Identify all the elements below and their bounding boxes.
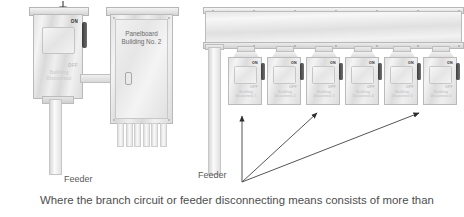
building-disconnect-4[interactable]: ONOFFBuildingDisconnect 4 bbox=[345, 57, 379, 105]
building-disconnect-6[interactable]: ONOFFBuildingDisconnect 6 bbox=[423, 57, 457, 105]
feeder-label-left: Feeder bbox=[64, 174, 93, 184]
building-disconnect-5[interactable]: ONOFFBuildingDisconnect 5 bbox=[384, 57, 418, 105]
disconnect-to-panelboard-nipple bbox=[80, 74, 114, 83]
disconnect-nameplate: BuildingDisconnect 3 bbox=[309, 90, 339, 98]
disconnect-nameplate: BuildingDisconnect 6 bbox=[426, 90, 456, 98]
cabinet-screw bbox=[168, 17, 170, 19]
panelboard-door[interactable]: Panelboard Building No. 2 bbox=[115, 19, 168, 119]
left-building-disconnect[interactable]: ON OFF Building Disconnect bbox=[33, 14, 83, 99]
nameplate-line-2: Disconnect 2 bbox=[270, 94, 300, 98]
on-position-label: ON bbox=[71, 19, 78, 24]
disconnect-operating-handle[interactable] bbox=[82, 22, 87, 48]
on-position-label: ON bbox=[330, 61, 336, 65]
cabinet-screw bbox=[168, 119, 170, 121]
cabinet-screw bbox=[113, 17, 115, 19]
panelboard-building-2[interactable]: Panelboard Building No. 2 bbox=[110, 14, 173, 124]
enclosure-window bbox=[390, 66, 413, 84]
off-position-label: OFF bbox=[328, 85, 336, 89]
disconnect-nameplate: Building Disconnect bbox=[38, 70, 80, 81]
conduit-stub bbox=[117, 123, 124, 147]
wireway-screw bbox=[417, 45, 419, 47]
conduit-stub bbox=[151, 123, 158, 147]
nameplate-line-2: Disconnect 1 bbox=[231, 94, 261, 98]
building-disconnect-3[interactable]: ONOFFBuildingDisconnect 3 bbox=[306, 57, 340, 105]
conduit-stub bbox=[143, 123, 150, 147]
conduit-stub bbox=[160, 123, 167, 147]
conduit-stub bbox=[134, 123, 141, 147]
off-position-label: OFF bbox=[289, 85, 297, 89]
enclosure-window bbox=[42, 27, 75, 54]
enclosure-body: ON OFF Building Disconnect bbox=[33, 14, 83, 99]
off-position-label: OFF bbox=[445, 85, 453, 89]
enclosure-window bbox=[312, 66, 335, 84]
disconnect-operating-handle[interactable] bbox=[456, 63, 460, 80]
cabinet-screw bbox=[113, 119, 115, 121]
feeder-label-right: Feeder bbox=[198, 170, 227, 180]
disconnect-nameplate: BuildingDisconnect 2 bbox=[270, 90, 300, 98]
panelboard-title-line-1: Panelboard bbox=[116, 30, 167, 38]
left-feeder-riser-conduit bbox=[49, 99, 62, 175]
on-position-label: ON bbox=[252, 61, 258, 65]
enclosure-body: ONOFFBuildingDisconnect 4 bbox=[345, 57, 379, 105]
figure-caption: Where the branch circuit or feeder disco… bbox=[40, 193, 460, 208]
on-position-label: ON bbox=[291, 61, 297, 65]
conduit-stub bbox=[126, 123, 133, 147]
wireway-screw bbox=[294, 45, 296, 47]
on-position-label: ON bbox=[447, 61, 453, 65]
on-position-label: ON bbox=[408, 61, 414, 65]
enclosure-body: ONOFFBuildingDisconnect 1 bbox=[228, 57, 262, 105]
auxiliary-gutter-wireway bbox=[205, 11, 462, 46]
nameplate-line-2: Disconnect 3 bbox=[309, 94, 339, 98]
building-disconnect-2[interactable]: ONOFFBuildingDisconnect 2 bbox=[267, 57, 301, 105]
off-position-label: OFF bbox=[250, 85, 258, 89]
disconnect-operating-handle[interactable] bbox=[300, 63, 304, 80]
enclosure-window bbox=[234, 66, 257, 84]
enclosure-window bbox=[273, 66, 296, 84]
off-position-label: OFF bbox=[68, 63, 78, 68]
disconnect-nameplate: BuildingDisconnect 4 bbox=[348, 90, 378, 98]
nameplate-line-2: Disconnect 6 bbox=[426, 94, 456, 98]
enclosure-body: ONOFFBuildingDisconnect 3 bbox=[306, 57, 340, 105]
off-position-label: OFF bbox=[367, 85, 375, 89]
callout-arrow-2 bbox=[242, 113, 317, 182]
callout-arrow-3 bbox=[242, 113, 419, 182]
nameplate-line-2: Disconnect 4 bbox=[348, 94, 378, 98]
wireway-screw bbox=[376, 45, 378, 47]
enclosure-body: ONOFFBuildingDisconnect 5 bbox=[384, 57, 418, 105]
on-position-label: ON bbox=[369, 61, 375, 65]
disconnect-nameplate: BuildingDisconnect 5 bbox=[387, 90, 417, 98]
nameplate-line-2: Disconnect bbox=[38, 76, 80, 82]
panelboard-title: Panelboard Building No. 2 bbox=[116, 30, 167, 47]
door-latch-icon[interactable] bbox=[125, 72, 132, 85]
disconnect-operating-handle[interactable] bbox=[339, 63, 343, 80]
enclosure-body: ONOFFBuildingDisconnect 6 bbox=[423, 57, 457, 105]
disconnect-operating-handle[interactable] bbox=[261, 63, 265, 80]
enclosure-window bbox=[351, 66, 374, 84]
disconnect-nameplate: BuildingDisconnect 1 bbox=[231, 90, 261, 98]
off-position-label: OFF bbox=[406, 85, 414, 89]
disconnect-operating-handle[interactable] bbox=[378, 63, 382, 80]
disconnect-operating-handle[interactable] bbox=[417, 63, 421, 80]
nameplate-line-2: Disconnect 5 bbox=[387, 94, 417, 98]
panelboard-branch-conduit-stubs bbox=[117, 123, 169, 145]
enclosure-body: ONOFFBuildingDisconnect 2 bbox=[267, 57, 301, 105]
wireway-screw bbox=[458, 45, 460, 47]
wireway-screw bbox=[335, 45, 337, 47]
right-feeder-riser-conduit bbox=[208, 47, 221, 175]
enclosure-window bbox=[429, 66, 452, 84]
building-disconnect-1[interactable]: ONOFFBuildingDisconnect 1 bbox=[228, 57, 262, 105]
panelboard-title-line-2: Building No. 2 bbox=[116, 38, 167, 46]
